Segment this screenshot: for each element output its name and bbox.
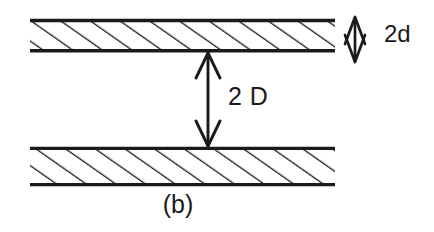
figure-container: 2 D 2d (b) xyxy=(0,0,434,232)
gap-dimension-label: 2 D xyxy=(228,84,268,109)
thickness-dimension-label: 2d xyxy=(384,22,411,46)
top-plate xyxy=(26,15,341,58)
bottom-plate xyxy=(26,143,341,192)
gap-dimension-arrow-icon xyxy=(196,53,220,146)
figure-caption: (b) xyxy=(0,192,356,217)
thickness-dimension-arrow-icon xyxy=(345,17,365,62)
